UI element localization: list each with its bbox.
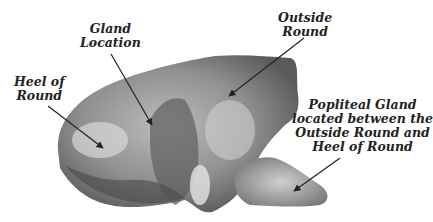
label-line: Heel of Round (292, 140, 433, 154)
label-line: located between the (292, 112, 433, 126)
meat-highlight (72, 122, 128, 158)
label-line: Gland (80, 22, 141, 36)
label-line: Round (278, 25, 332, 39)
label-line: Outside (278, 11, 332, 25)
label-line: Round (14, 89, 65, 103)
meat-highlight (190, 165, 210, 205)
label-line: Outside Round and (292, 126, 433, 140)
label-gland-location: Gland Location (80, 22, 141, 50)
label-outside-round: Outside Round (278, 11, 332, 39)
label-line: Location (80, 36, 141, 50)
label-line: Heel of (14, 75, 65, 89)
meat-highlight (205, 100, 255, 160)
popliteal-gland-piece (235, 157, 328, 206)
label-popliteal-gland: Popliteal Gland located between the Outs… (292, 98, 433, 154)
label-line: Popliteal Gland (292, 98, 433, 112)
label-heel-of-round: Heel of Round (14, 75, 65, 103)
